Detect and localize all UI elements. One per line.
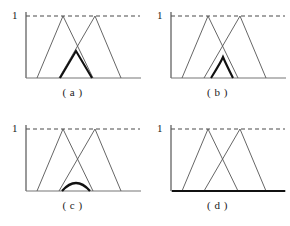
result-curve: [60, 51, 92, 78]
panel-a-plot: [0, 0, 145, 90]
membership-curve-b: [204, 16, 266, 78]
membership-curve-a: [37, 129, 93, 191]
membership-curve-b: [204, 129, 266, 191]
panel-c-plot: [0, 113, 145, 203]
panel-b-plot: [145, 0, 290, 90]
panel-c-caption: ( c ): [0, 199, 145, 211]
y-tick-label-1: 1: [157, 122, 163, 134]
membership-curve-a: [182, 129, 238, 191]
y-tick-label-1: 1: [12, 9, 18, 21]
membership-curve-b: [59, 129, 121, 191]
result-curve: [62, 183, 90, 191]
panel-d: 1 ( d ): [145, 113, 290, 226]
membership-curve-b: [59, 16, 121, 78]
panel-d-plot: [145, 113, 290, 203]
y-tick-label-1: 1: [157, 9, 163, 21]
y-tick-label-1: 1: [12, 122, 18, 134]
panel-a-caption: ( a ): [0, 86, 145, 98]
panel-b: 1 ( b ): [145, 0, 290, 113]
figure-container: 1 ( a ) 1 ( b ) 1 ( c ): [0, 0, 290, 226]
panel-a: 1 ( a ): [0, 0, 145, 113]
panel-c: 1 ( c ): [0, 113, 145, 226]
membership-curve-a: [182, 16, 238, 78]
panel-b-caption: ( b ): [145, 86, 290, 98]
panel-d-caption: ( d ): [145, 199, 290, 211]
